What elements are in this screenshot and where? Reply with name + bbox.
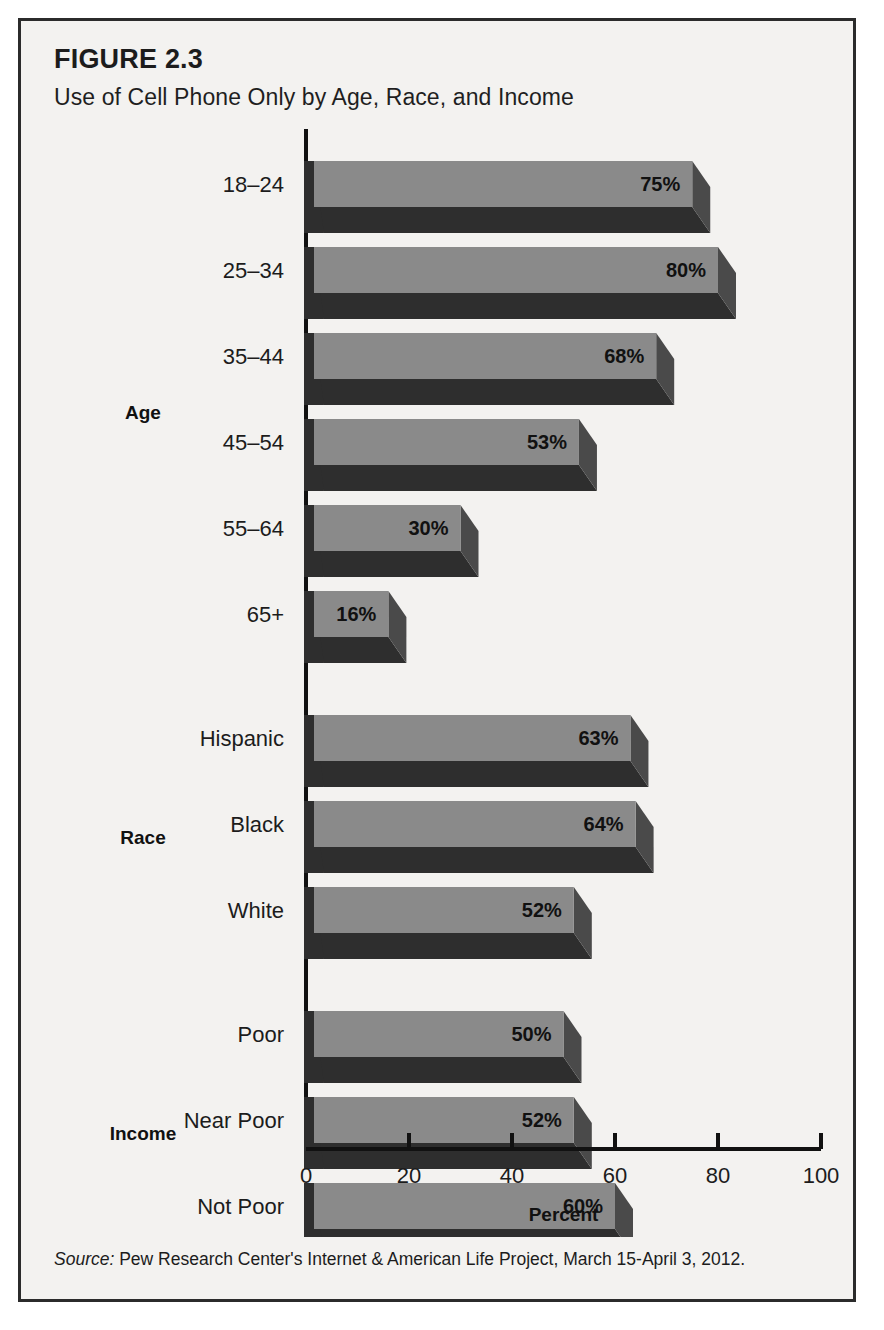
bar-value-label: 75% [640, 173, 680, 195]
bar-top-face [314, 247, 718, 293]
group-label: Age [125, 402, 161, 423]
bar-front-face [306, 293, 736, 319]
category-label: 25–34 [223, 258, 284, 283]
category-label: Near Poor [184, 1108, 284, 1133]
source-note: Source: Pew Research Center's Internet &… [54, 1249, 745, 1270]
bar-group: 16%65+ [247, 591, 407, 663]
figure-frame: FIGURE 2.3 Use of Cell Phone Only by Age… [18, 18, 856, 1302]
bar-front-face [306, 207, 710, 233]
bar-group: 52%White [228, 887, 592, 959]
category-label: 18–24 [223, 172, 284, 197]
bar-group: 80%25–34 [223, 247, 736, 319]
bar-value-label: 30% [408, 517, 448, 539]
x-axis-tick-label: 0 [300, 1163, 312, 1188]
bar-value-label: 53% [527, 431, 567, 453]
x-axis-tick-label: 100 [803, 1163, 840, 1188]
bar-group: 63%Hispanic [200, 715, 649, 787]
bar-group: 53%45–54 [223, 419, 597, 491]
figure-panel: FIGURE 2.3 Use of Cell Phone Only by Age… [21, 21, 853, 1299]
bar-group: 30%55–64 [223, 505, 479, 577]
bar-front-face [306, 465, 597, 491]
bar-group: 52%Near Poor [184, 1097, 592, 1169]
bar-value-label: 80% [666, 259, 706, 281]
x-axis-title: Percent [529, 1204, 599, 1225]
bar-front-face [306, 847, 654, 873]
category-label: Black [230, 812, 285, 837]
group-label: Race [120, 827, 165, 848]
bar-front-face [306, 761, 648, 787]
bar-front-face [306, 1229, 633, 1237]
category-label: White [228, 898, 284, 923]
chart-area: 75%18–2480%25–3468%35–4453%45–5430%55–64… [21, 127, 853, 1237]
category-label: Hispanic [200, 726, 284, 751]
figure-number-label: FIGURE 2.3 [54, 44, 203, 75]
bar-value-label: 50% [511, 1023, 551, 1045]
bar-front-face [306, 1143, 592, 1169]
category-label: 65+ [247, 602, 284, 627]
category-label: 55–64 [223, 516, 284, 541]
bar-chart-svg: 75%18–2480%25–3468%35–4453%45–5430%55–64… [21, 127, 853, 1237]
source-word: Source: [54, 1249, 114, 1269]
bar-group: 64%Black [230, 801, 653, 873]
bar-top-face [314, 161, 692, 207]
bar-front-face [306, 1057, 582, 1083]
category-label: Not Poor [197, 1194, 284, 1219]
bar-value-label: 52% [522, 1109, 562, 1131]
bar-value-label: 63% [578, 727, 618, 749]
x-axis-tick-label: 40 [500, 1163, 524, 1188]
bar-front-face [306, 379, 674, 405]
category-label: Poor [238, 1022, 284, 1047]
bar-value-label: 52% [522, 899, 562, 921]
bar-group: 75%18–24 [223, 161, 710, 233]
source-text: Pew Research Center's Internet & America… [114, 1249, 745, 1269]
category-label: 45–54 [223, 430, 284, 455]
figure-title: Use of Cell Phone Only by Age, Race, and… [54, 84, 574, 111]
x-axis-tick-label: 20 [397, 1163, 421, 1188]
bar-value-label: 68% [604, 345, 644, 367]
x-axis-tick-label: 80 [706, 1163, 730, 1188]
category-label: 35–44 [223, 344, 284, 369]
bar-value-label: 64% [584, 813, 624, 835]
bar-front-face [306, 933, 592, 959]
bar-group: 68%35–44 [223, 333, 674, 405]
group-label: Income [110, 1123, 177, 1144]
bar-group: 50%Poor [238, 1011, 582, 1083]
bar-value-label: 16% [336, 603, 376, 625]
bar-front-face [306, 551, 479, 577]
x-axis-tick-label: 60 [603, 1163, 627, 1188]
bar-end-cap [615, 1183, 633, 1237]
figure-root: FIGURE 2.3 Use of Cell Phone Only by Age… [0, 0, 884, 1330]
